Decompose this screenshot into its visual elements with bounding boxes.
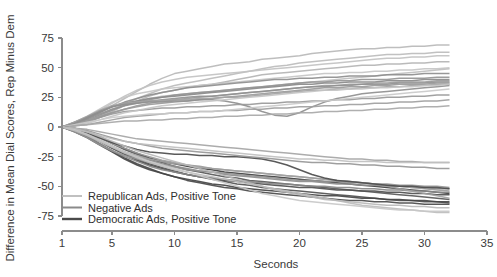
x-axis-tick-label: 20 [293, 237, 306, 249]
legend-label: Negative Ads [88, 202, 153, 214]
y-axis-tick-label: 75 [41, 32, 54, 44]
x-axis-tick-label: 5 [109, 237, 115, 249]
line-chart-canvas: 7550250-25-50-7515101520253035 Republica… [0, 0, 497, 277]
y-axis-tick-label: -50 [37, 180, 54, 192]
x-axis-tick-label: 30 [418, 237, 431, 249]
series-layer [62, 45, 450, 212]
y-axis-tick-label: 0 [48, 121, 54, 133]
legend-label: Democratic Ads, Positive Tone [88, 213, 236, 225]
y-axis-tick-label: -75 [37, 210, 54, 222]
legend-label: Republican Ads, Positive Tone [88, 190, 236, 202]
x-axis-tick-label: 25 [356, 237, 369, 249]
x-axis-title: Seconds [254, 258, 299, 270]
series-line [62, 127, 450, 192]
chart-figure: 7550250-25-50-7515101520253035 Republica… [0, 0, 497, 277]
y-axis-tick-label: -25 [37, 151, 54, 163]
y-axis-title: Difference in Mean Dial Scores, Rep Minu… [4, 14, 16, 261]
chart-legend: Republican Ads, Positive ToneNegative Ad… [62, 190, 236, 225]
y-axis-tick-label: 50 [41, 62, 54, 74]
x-axis-tick-label: 1 [59, 237, 65, 249]
y-axis-tick-label: 25 [41, 91, 54, 103]
x-axis-tick-label: 10 [168, 237, 181, 249]
x-axis-tick-label: 35 [481, 237, 494, 249]
x-axis-tick-label: 15 [231, 237, 244, 249]
